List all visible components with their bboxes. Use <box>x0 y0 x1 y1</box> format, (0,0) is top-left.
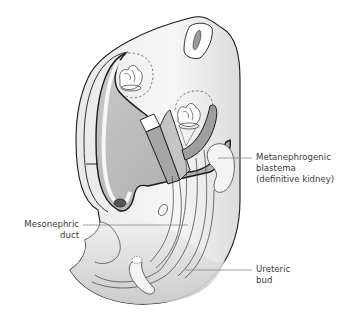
label-text: (definitive kidney) <box>256 174 334 184</box>
label-text: blastema <box>256 163 296 173</box>
label-text: Mesonephric <box>24 219 79 229</box>
label-text: Metanephrogenic <box>256 152 331 162</box>
label-text: bud <box>256 275 272 285</box>
label-metanephrogenic-blastema: Metanephrogenic blastema (definitive kid… <box>256 152 334 184</box>
label-text: duct <box>60 230 80 240</box>
embryo-kidney-diagram: Metanephrogenic blastema (definitive kid… <box>0 0 355 315</box>
label-text: Ureteric <box>256 264 290 274</box>
label-ureteric-bud: Ureteric bud <box>256 264 290 285</box>
label-mesonephric-duct: Mesonephric duct <box>24 219 79 240</box>
